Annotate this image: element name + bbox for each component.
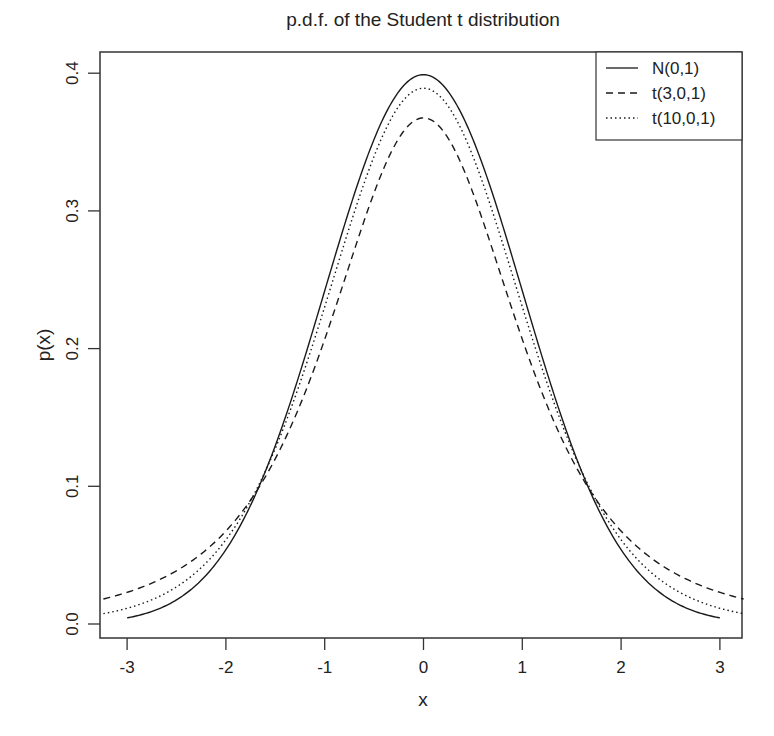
x-tick-label: -3 — [120, 658, 135, 677]
y-tick-label: 0.1 — [63, 474, 82, 498]
curve-dotted — [103, 88, 743, 613]
x-tick-label: -1 — [317, 658, 332, 677]
x-tick-label: 3 — [715, 658, 724, 677]
x-axis-label: x — [418, 689, 428, 710]
x-tick-label: -2 — [218, 658, 233, 677]
legend-label-t3: t(3,0,1) — [652, 84, 706, 103]
x-tick-label: 1 — [518, 658, 527, 677]
y-tick-label: 0.2 — [63, 337, 82, 361]
curve-dashed — [103, 118, 743, 599]
legend-label-normal: N(0,1) — [652, 59, 699, 78]
legend-label-t10: t(10,0,1) — [652, 109, 715, 128]
curves — [103, 75, 743, 618]
chart: p.d.f. of the Student t distribution -3-… — [0, 0, 774, 736]
y-axis: 0.00.10.20.30.4 — [63, 61, 100, 635]
x-axis: -3-2-10123 — [120, 638, 725, 677]
x-tick-label: 0 — [419, 658, 428, 677]
legend: N(0,1) t(3,0,1) t(10,0,1) — [596, 52, 742, 140]
y-tick-label: 0.4 — [63, 61, 82, 85]
curve-solid — [127, 75, 720, 618]
x-tick-label: 2 — [616, 658, 625, 677]
y-tick-label: 0.0 — [63, 612, 82, 636]
y-tick-label: 0.3 — [63, 199, 82, 223]
y-axis-label: p(x) — [33, 329, 54, 362]
chart-title: p.d.f. of the Student t distribution — [286, 9, 560, 30]
